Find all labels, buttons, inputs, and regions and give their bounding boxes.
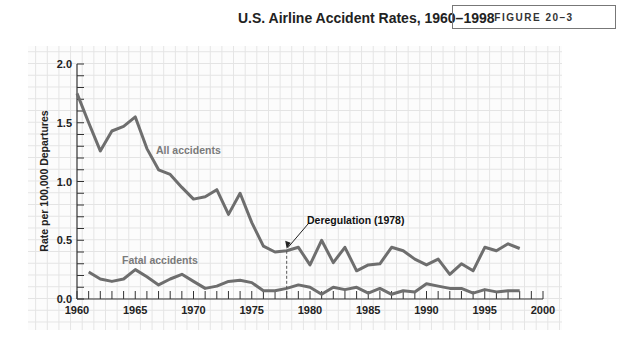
fatal-accidents-label: Fatal accidents [122,254,198,266]
all-accidents-line [77,93,520,274]
x-tick-label: 1995 [473,304,497,316]
x-tick-label: 1965 [123,304,147,316]
deregulation-label: Deregulation (1978) [307,214,404,226]
y-tick-label: 1.5 [57,117,72,129]
axes: 0.00.51.01.52.01960196519701975198019851… [57,58,556,316]
y-tick-label: 2.0 [57,58,72,70]
x-tick-label: 1985 [356,304,380,316]
x-tick-label: 1970 [181,304,205,316]
x-tick-label: 1960 [65,304,89,316]
x-tick-label: 1990 [414,304,438,316]
x-tick-label: 2000 [531,304,555,316]
all-accidents-label: All accidents [156,144,221,156]
x-tick-label: 1975 [240,304,264,316]
deregulation-arrow [288,224,308,248]
x-tick-label: 1980 [298,304,322,316]
y-tick-label: 1.0 [57,176,72,188]
chart-plot: 0.00.51.01.52.01960196519701975198019851… [0,0,624,340]
fatal-accidents-line [89,270,520,295]
annotations: All accidentsFatal accidentsDeregulation… [122,144,404,299]
y-tick-label: 0.5 [57,234,72,246]
